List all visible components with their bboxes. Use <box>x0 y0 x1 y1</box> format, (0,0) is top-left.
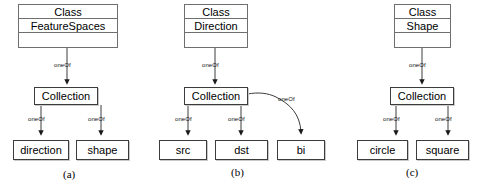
edge-label-oneof: oneOf <box>228 116 245 123</box>
class-box-featurespaces[interactable]: Class FeatureSpaces <box>18 4 118 48</box>
panel-caption-a: (a) <box>63 168 75 180</box>
leaf-label: dst <box>234 144 249 156</box>
collection-box-b[interactable]: Collection <box>184 87 248 105</box>
leaf-box-direction[interactable]: direction <box>13 140 69 160</box>
collection-label: Collection <box>398 90 446 102</box>
class-name-label: Direction <box>185 19 247 33</box>
figure-canvas: Class FeatureSpaces oneOf Collection one… <box>0 0 481 187</box>
leaf-label: shape <box>88 144 118 156</box>
class-attributes-compartment <box>395 33 450 47</box>
collection-box-c[interactable]: Collection <box>390 87 454 105</box>
leaf-label: square <box>426 144 460 156</box>
edge-label-oneof: oneOf <box>54 62 71 69</box>
class-attributes-compartment <box>19 33 117 47</box>
edge-label-oneof: oneOf <box>409 62 426 69</box>
collection-box-a[interactable]: Collection <box>34 87 98 105</box>
class-name-label: FeatureSpaces <box>19 19 117 33</box>
leaf-box-dst[interactable]: dst <box>215 140 268 160</box>
leaf-box-src[interactable]: src <box>159 140 207 160</box>
leaf-box-shape[interactable]: shape <box>76 140 129 160</box>
leaf-box-bi[interactable]: bi <box>277 140 325 160</box>
panel-caption-b: (b) <box>231 166 244 178</box>
edge-label-oneof: oneOf <box>383 116 400 123</box>
leaf-label: src <box>176 144 191 156</box>
leaf-box-square[interactable]: square <box>416 140 469 160</box>
leaf-label: direction <box>20 144 62 156</box>
class-name-label: Shape <box>395 19 450 33</box>
class-box-shape[interactable]: Class Shape <box>394 4 451 48</box>
leaf-label: circle <box>370 144 396 156</box>
edge-label-oneof: oneOf <box>88 116 105 123</box>
edge-label-oneof: oneOf <box>278 96 295 103</box>
edge-label-oneof: oneOf <box>175 116 192 123</box>
collection-label: Collection <box>192 90 240 102</box>
class-stereotype-label: Class <box>19 5 117 19</box>
edge-label-oneof: oneOf <box>435 116 452 123</box>
panel-caption-c: (c) <box>406 166 418 178</box>
class-stereotype-label: Class <box>185 5 247 19</box>
class-box-direction[interactable]: Class Direction <box>184 4 248 48</box>
class-stereotype-label: Class <box>395 5 450 19</box>
edge-label-oneof: oneOf <box>28 116 45 123</box>
edge-label-oneof: oneOf <box>202 62 219 69</box>
class-attributes-compartment <box>185 33 247 47</box>
leaf-box-circle[interactable]: circle <box>357 140 408 160</box>
collection-label: Collection <box>42 90 90 102</box>
leaf-label: bi <box>297 144 306 156</box>
